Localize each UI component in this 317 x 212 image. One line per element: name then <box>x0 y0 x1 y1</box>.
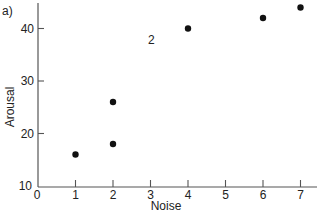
y-tick-label: 40 <box>21 22 35 36</box>
x-axis-label: Noise <box>151 199 182 212</box>
x-tick-label: 5 <box>222 188 229 202</box>
x-tick-label: 1 <box>72 188 79 202</box>
x-tick-label: 0 <box>34 188 41 202</box>
x-tick-label: 4 <box>185 188 192 202</box>
y-axis-label: Arousal <box>3 87 17 128</box>
x-tick-label: 6 <box>260 188 267 202</box>
data-point <box>185 25 191 31</box>
scatter-chart: 10203040 01234567 a) 2 Noise Arousal <box>0 0 317 212</box>
x-tick-label: 7 <box>297 188 304 202</box>
y-tick-label: 10 <box>19 179 33 193</box>
y-tick-label: 30 <box>21 74 35 88</box>
annotation-label: 2 <box>148 33 155 47</box>
panel-label: a) <box>2 4 13 18</box>
x-tick-label: 2 <box>110 188 117 202</box>
data-point <box>110 141 116 147</box>
data-point <box>72 151 78 157</box>
y-tick-label: 20 <box>21 127 35 141</box>
data-point <box>297 4 303 10</box>
data-point <box>260 15 266 21</box>
data-point <box>110 99 116 105</box>
